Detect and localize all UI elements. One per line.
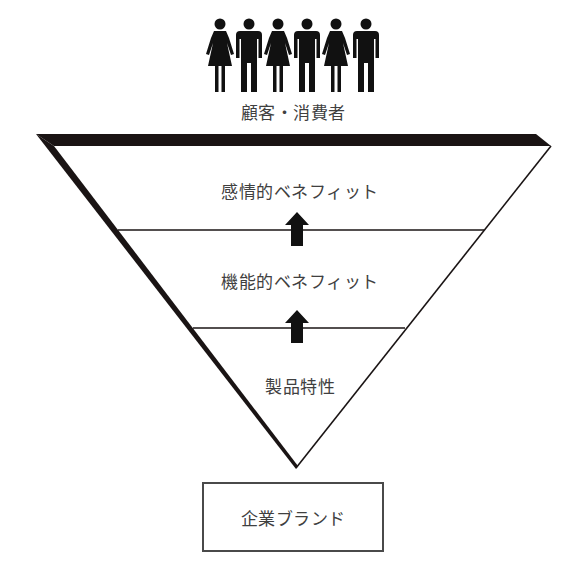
up-arrow-icon [285, 212, 309, 246]
up-arrow-icon [285, 310, 309, 343]
corporate-brand-label: 企業ブランド [241, 505, 346, 530]
level-label-emotional: 感情的ベネフィット [200, 178, 400, 203]
level-label-product: 製品特性 [200, 373, 400, 398]
level-label-functional: 機能的ベネフィット [200, 268, 400, 293]
corporate-brand-box: 企業ブランド [202, 482, 384, 552]
pyramid-top-edge [36, 134, 551, 146]
